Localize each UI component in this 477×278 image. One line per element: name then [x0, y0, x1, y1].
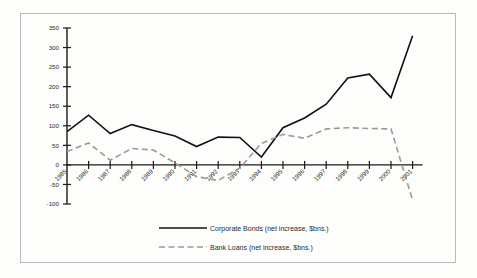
x-tick-label: 1990: [161, 167, 176, 182]
x-tick-label: 1987: [96, 167, 111, 182]
legend-label: Bank Loans (net increase, $bns.): [210, 244, 313, 252]
y-tick-label: 300: [49, 44, 60, 51]
x-tick-label: 1996: [291, 167, 306, 182]
line-chart-plot: -100-50050100150200250300350 19851986198…: [21, 14, 455, 262]
y-tick-label: 200: [49, 83, 60, 90]
x-tick-label: 1985: [53, 167, 68, 182]
x-tick-label: 1995: [269, 167, 284, 182]
x-axis: 1985198619871988198919901991199219931994…: [53, 161, 423, 182]
x-tick-label: 1998: [334, 167, 349, 182]
y-tick-label: 0: [56, 161, 60, 168]
series-line-corporate-bonds: [67, 36, 413, 157]
y-tick-label: -100: [47, 200, 60, 207]
x-tick-label: 1999: [355, 167, 370, 182]
x-tick-label: 1997: [312, 167, 327, 182]
x-tick-label: 1994: [247, 167, 262, 182]
x-tick-label: 1988: [118, 167, 133, 182]
legend-label: Corporate Bonds (net increase, $bns.): [210, 225, 329, 233]
x-tick-label: 2001: [399, 167, 414, 182]
x-tick-label: 2000: [377, 167, 392, 182]
chart-legend: Corporate Bonds (net increase, $bns.)Ban…: [159, 225, 329, 252]
y-tick-label: 50: [52, 142, 59, 149]
x-tick-label: 1986: [75, 167, 90, 182]
chart-page: -100-50050100150200250300350 19851986198…: [0, 0, 477, 278]
y-tick-label: 100: [49, 122, 60, 129]
y-tick-label: 250: [49, 63, 60, 70]
chart-frame: -100-50050100150200250300350 19851986198…: [20, 13, 456, 263]
y-tick-label: 150: [49, 102, 60, 109]
x-tick-label: 1989: [139, 167, 154, 182]
y-tick-label: 350: [49, 24, 60, 31]
